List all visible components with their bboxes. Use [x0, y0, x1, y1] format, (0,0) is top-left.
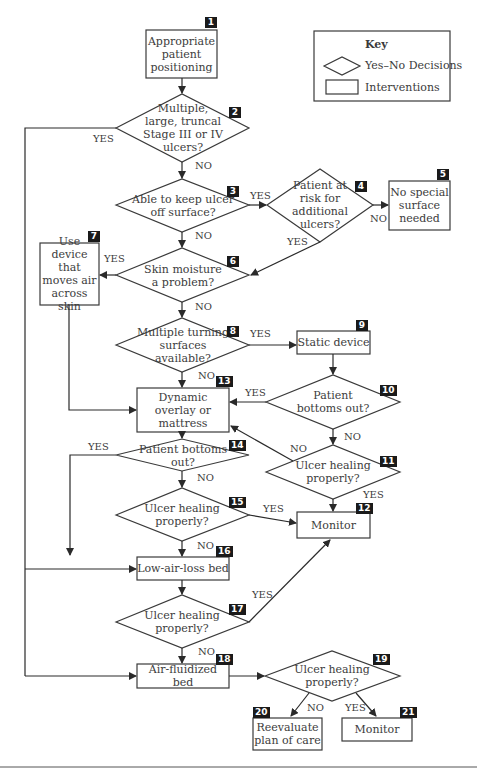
edge-label-3-yes: YES — [250, 190, 271, 201]
edge-label-17-no: NO — [198, 646, 215, 657]
node-number-badge: 1 — [205, 17, 217, 28]
node-number-badge: 17 — [229, 604, 246, 615]
node-12-monitor: Monitor — [297, 512, 370, 538]
edge-label-14-yes: YES — [88, 441, 109, 452]
edge-label-17-yes: YES — [252, 589, 273, 600]
node-3-keep-ulcer-off-decision: Able to keep ulcer off surface? — [132, 192, 234, 220]
node-number-badge: 2 — [229, 107, 241, 118]
node-5-no-special-surface: No special surface needed — [389, 181, 450, 230]
node-17-ulcer-healing-decision: Ulcer healing properly? — [142, 608, 222, 636]
node-number-badge: 10 — [380, 385, 397, 396]
node-11-ulcer-healing-decision: Ulcer healing properly? — [293, 458, 373, 486]
node-number-badge: 20 — [253, 707, 270, 718]
node-1-appropriate-positioning: Appropriate patient positioning — [146, 30, 217, 78]
node-number-badge: 12 — [356, 503, 373, 514]
edge-label-2-no: NO — [195, 160, 212, 171]
node-9-static-device: Static device — [297, 331, 370, 354]
edge-label-6-yes: YES — [104, 253, 125, 264]
node-8-turning-surfaces-decision: Multiple turning surfaces available? — [132, 331, 234, 359]
edge-label-4-no: NO — [370, 213, 387, 224]
node-number-badge: 11 — [380, 456, 397, 467]
edge-label-8-yes: YES — [250, 328, 271, 339]
edge-label-2-yes: YES — [93, 133, 114, 144]
node-number-badge: 14 — [229, 440, 246, 451]
node-18-air-fluidized-bed: Air-fluidized bed — [137, 664, 229, 688]
node-number-badge: 8 — [227, 326, 239, 337]
key-title: Key — [365, 38, 388, 51]
edge-label-19-no: NO — [307, 702, 324, 713]
node-number-badge: 3 — [227, 186, 239, 197]
node-16-low-air-loss-bed: Low-air-loss bed — [137, 557, 229, 580]
node-number-badge: 15 — [229, 497, 246, 508]
node-2-stage-ulcers-decision: Multiple, large, truncal Stage III or IV… — [140, 104, 226, 152]
node-number-badge: 5 — [437, 169, 449, 180]
node-number-badge: 19 — [373, 654, 390, 665]
edge-label-6-no: NO — [195, 301, 212, 312]
node-20-reevaluate-plan: Reevaluate plan of care — [253, 718, 322, 750]
node-21-monitor: Monitor — [342, 718, 412, 741]
node-number-badge: 9 — [356, 320, 368, 331]
node-number-badge: 7 — [88, 231, 100, 242]
node-number-badge: 13 — [216, 376, 233, 387]
node-13-dynamic-overlay: Dynamic overlay or mattress — [137, 388, 229, 432]
node-7-air-moving-device: Use device that moves air across skin — [40, 243, 99, 305]
node-number-badge: 4 — [355, 181, 367, 192]
key-rect-shape — [326, 80, 358, 94]
edge-label-14-no: NO — [197, 472, 214, 483]
edge-label-3-no: NO — [195, 230, 212, 241]
node-number-badge: 16 — [216, 546, 233, 557]
node-4-risk-decision: Patient at risk for additional ulcers? — [290, 178, 350, 232]
node-number-badge: 21 — [400, 707, 417, 718]
node-15-ulcer-healing-decision: Ulcer healing properly? — [142, 501, 222, 529]
edge-label-11-yes: YES — [363, 489, 384, 500]
node-19-ulcer-healing-decision: Ulcer healing properly? — [292, 662, 372, 690]
node-number-badge: 6 — [227, 256, 239, 267]
node-14-bottoms-out-decision: Patient bottoms out? — [128, 448, 238, 463]
edge-label-10-yes: YES — [245, 387, 266, 398]
edge-label-19-yes: YES — [345, 702, 366, 713]
edge-label-10-no: NO — [344, 431, 361, 442]
key-decision-label: Yes–No Decisions — [365, 59, 462, 72]
edge-label-15-no: NO — [197, 540, 214, 551]
edge-label-4-yes: YES — [287, 236, 308, 247]
node-6-skin-moisture-decision: Skin moisture a problem? — [140, 262, 226, 290]
node-10-bottoms-out-decision: Patient bottoms out? — [293, 388, 373, 416]
edge-label-15-yes: YES — [263, 503, 284, 514]
edge-label-11-no: NO — [290, 443, 307, 454]
node-number-badge: 18 — [216, 654, 233, 665]
key-intervention-label: Interventions — [365, 81, 440, 94]
edge-label-8-no: NO — [198, 370, 215, 381]
